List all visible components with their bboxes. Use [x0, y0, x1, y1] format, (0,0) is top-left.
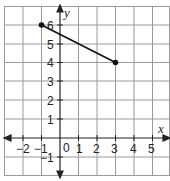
y-tick-label: −1 — [40, 151, 54, 165]
endpoint-marker — [39, 22, 45, 28]
x-axis-label: x — [157, 121, 164, 136]
y-tick-label: 1 — [47, 113, 54, 127]
tick-marks — [23, 25, 153, 157]
x-tick-label: 4 — [130, 142, 137, 156]
x-tick-label: −2 — [16, 142, 30, 156]
x-tick-label: 5 — [148, 142, 155, 156]
x-axis — [4, 135, 170, 141]
y-tick-label: 5 — [47, 38, 54, 52]
x-tick-label: 2 — [93, 142, 100, 156]
x-axis-left-arrow-icon — [4, 135, 11, 141]
y-axis-down-arrow-icon — [57, 171, 63, 178]
origin-label: 0 — [63, 141, 70, 155]
y-tick-label: 2 — [47, 94, 54, 108]
y-tick-label: 4 — [47, 56, 54, 70]
x-tick-labels: −2 −1 1 2 3 4 5 — [16, 142, 155, 156]
x-tick-label: 3 — [111, 142, 118, 156]
x-tick-label: 1 — [76, 142, 83, 156]
endpoint-marker — [113, 60, 119, 66]
coordinate-plane: y x −2 −1 1 2 3 4 5 0 1 2 3 4 5 6 −1 — [0, 0, 170, 181]
x-axis-right-arrow-icon — [163, 135, 170, 141]
y-tick-label: 3 — [47, 75, 54, 89]
y-axis-label: y — [62, 5, 70, 20]
